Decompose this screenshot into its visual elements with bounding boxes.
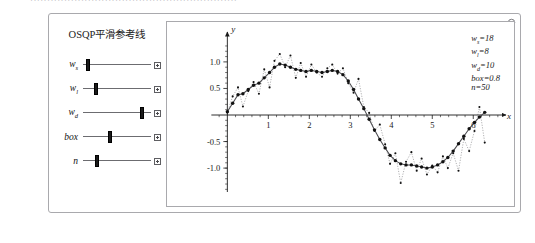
- svg-text:-0.5: -0.5: [207, 137, 220, 147]
- svg-text:-1.0: -1.0: [207, 163, 220, 173]
- slider-row-n: n: [49, 154, 165, 168]
- svg-text:0.5: 0.5: [210, 83, 221, 93]
- scan-bottom-cropped-text: ································: [0, 238, 535, 243]
- slider-stepper-wl[interactable]: [154, 86, 161, 93]
- legend-item-wl: wl=8: [471, 47, 500, 60]
- slider-track-ws: [83, 64, 151, 65]
- svg-text:4: 4: [389, 120, 394, 130]
- scatter-plot: xy1234561.00.5-0.5-1.0: [167, 22, 514, 206]
- slider-wl[interactable]: [83, 82, 151, 96]
- slider-label-wl: wl: [49, 83, 83, 95]
- scan-top-cropped-text: ········································…: [0, 0, 535, 5]
- slider-track-n: [83, 160, 151, 161]
- svg-text:2: 2: [307, 120, 311, 130]
- control-panel: OSQP平滑参考线 ws wl wd b: [49, 14, 165, 212]
- page-title: OSQP平滑参考线: [49, 26, 165, 41]
- legend-item-wd: wd=10: [471, 61, 500, 74]
- slider-box[interactable]: [83, 130, 151, 144]
- slider-label-n: n: [49, 156, 83, 166]
- svg-text:5: 5: [430, 120, 434, 130]
- legend-item-n: n=50: [471, 83, 500, 93]
- svg-text:3: 3: [348, 120, 352, 130]
- slider-row-wl: wl: [49, 82, 165, 96]
- svg-text:x: x: [506, 111, 511, 121]
- legend-item-ws: ws=18: [471, 34, 500, 47]
- slider-ws[interactable]: [83, 58, 151, 72]
- plot-panel: xy1234561.00.5-0.5-1.0 ws=18 wl=8 wd=10 …: [166, 21, 515, 207]
- slider-stepper-box[interactable]: [154, 134, 161, 141]
- slider-label-box: box: [49, 132, 83, 142]
- slider-stepper-n[interactable]: [154, 158, 161, 165]
- slider-handle-wl[interactable]: [94, 83, 98, 95]
- slider-row-wd: wd: [49, 106, 165, 120]
- slider-track-box: [83, 136, 151, 137]
- svg-text:1: 1: [266, 120, 270, 130]
- svg-text:1.0: 1.0: [210, 57, 221, 67]
- slider-wd[interactable]: [83, 106, 151, 120]
- slider-label-ws: ws: [49, 59, 83, 71]
- svg-text:y: y: [230, 24, 235, 34]
- legend: ws=18 wl=8 wd=10 box=0.8 n=50: [471, 34, 500, 93]
- slider-row-box: box: [49, 130, 165, 144]
- slider-stepper-ws[interactable]: [154, 62, 161, 69]
- slider-handle-ws[interactable]: [86, 59, 90, 71]
- slider-row-ws: ws: [49, 58, 165, 72]
- slider-stepper-wd[interactable]: [154, 110, 161, 117]
- slider-n[interactable]: [83, 154, 151, 168]
- manipulate-frame: OSQP平滑参考线 ws wl wd b: [48, 13, 521, 213]
- slider-label-wd: wd: [49, 107, 83, 119]
- slider-handle-wd[interactable]: [140, 107, 144, 119]
- slider-handle-box[interactable]: [108, 131, 112, 143]
- slider-handle-n[interactable]: [95, 155, 99, 167]
